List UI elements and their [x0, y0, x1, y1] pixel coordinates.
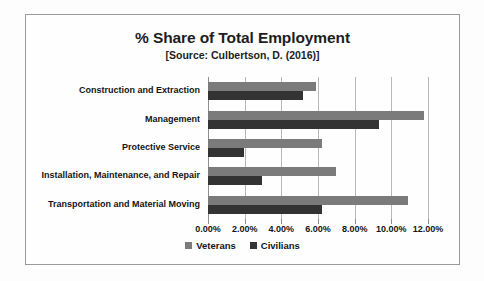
bar-veterans [208, 196, 408, 205]
bar-veterans [208, 167, 336, 176]
category-label: Transportation and Material Moving [48, 199, 200, 209]
legend-label-veterans: Veterans [196, 240, 236, 251]
bar-veterans [208, 82, 316, 91]
category-label: Management [145, 114, 200, 124]
bar-civilians [208, 120, 379, 129]
chart-title: % Share of Total Employment [26, 29, 459, 47]
chart-subtitle: [Source: Culbertson, D. (2016)] [26, 49, 459, 61]
legend-swatch-civilians-icon [250, 242, 257, 249]
legend-label-civilians: Civilians [261, 240, 300, 251]
x-axis-tick-label: 6.00% [305, 224, 331, 234]
category-group: Management [208, 105, 428, 133]
x-axis-tick-label: 10.00% [376, 224, 407, 234]
x-axis-tick-label: 8.00% [342, 224, 368, 234]
x-axis-tick-label: 0.00% [195, 224, 221, 234]
bar-civilians [208, 148, 244, 157]
gridline-12.00% [428, 77, 429, 219]
bar-veterans [208, 111, 424, 120]
chart-screenshot: % Share of Total Employment [Source: Cul… [0, 0, 484, 281]
bar-civilians [208, 91, 303, 100]
category-group: Installation, Maintenance, and Repair [208, 162, 428, 190]
legend-item-veterans: Veterans [185, 240, 236, 251]
bar-civilians [208, 176, 262, 185]
plot-area: 0.00%2.00%4.00%6.00%8.00%10.00%12.00%Con… [208, 77, 428, 219]
category-label: Construction and Extraction [79, 85, 200, 95]
category-group: Transportation and Material Moving [208, 191, 428, 219]
category-label: Installation, Maintenance, and Repair [41, 170, 200, 180]
bar-civilians [208, 205, 322, 214]
chart-frame: % Share of Total Employment [Source: Cul… [25, 14, 460, 265]
legend-swatch-veterans-icon [185, 242, 192, 249]
legend-item-civilians: Civilians [250, 240, 300, 251]
bar-veterans [208, 139, 322, 148]
chart-legend: Veterans Civilians [26, 240, 459, 251]
category-group: Protective Service [208, 134, 428, 162]
x-axis-tick-label: 4.00% [269, 224, 295, 234]
category-label: Protective Service [122, 142, 200, 152]
x-axis-tick-label: 12.00% [413, 224, 444, 234]
x-axis-tick-label: 2.00% [232, 224, 258, 234]
category-group: Construction and Extraction [208, 77, 428, 105]
